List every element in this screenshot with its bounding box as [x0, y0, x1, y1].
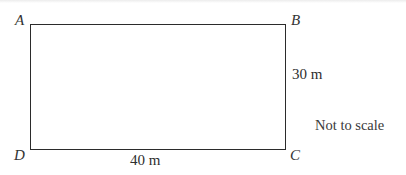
- rectangle-abcd: [30, 24, 286, 150]
- vertex-label-d: D: [14, 148, 25, 163]
- vertex-label-a: A: [15, 13, 24, 28]
- vertex-label-b: B: [291, 13, 300, 28]
- not-to-scale-note: Not to scale: [315, 118, 384, 133]
- side-bc-length-label: 30 m: [292, 67, 322, 82]
- scan-edge-artifact: [0, 0, 406, 3]
- side-dc-length-label: 40 m: [130, 153, 160, 168]
- vertex-label-c: C: [290, 148, 300, 163]
